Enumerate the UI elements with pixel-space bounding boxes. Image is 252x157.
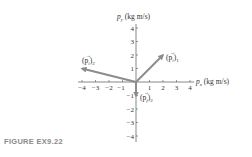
svg-text:−3: −3 <box>92 84 100 92</box>
svg-text:−4: −4 <box>78 84 86 92</box>
svg-text:4: 4 <box>131 25 135 33</box>
svg-text:−1: −1 <box>117 84 125 92</box>
y-axis-label: py (kg m/s) <box>116 12 151 22</box>
svg-text:−4: −4 <box>127 133 135 141</box>
svg-text:2: 2 <box>131 52 135 60</box>
momentum-vector-diagram: −4 −3 −2 −1 1 2 3 4 4 3 2 1 −1 −2 −3 −4 … <box>0 0 252 157</box>
svg-text:→: → <box>170 50 175 55</box>
svg-text:−1: −1 <box>127 92 135 100</box>
svg-text:3: 3 <box>175 84 179 92</box>
x-axis-label: px (kg m/s) <box>195 77 230 87</box>
svg-text:4: 4 <box>188 84 192 92</box>
figure-caption: FIGURE EX9.22 <box>4 137 63 146</box>
svg-text:→: → <box>144 90 149 95</box>
svg-text:−2: −2 <box>105 84 113 92</box>
svg-text:3: 3 <box>131 38 135 46</box>
svg-text:1: 1 <box>131 65 135 73</box>
svg-text:−2: −2 <box>127 106 135 114</box>
vector-pi2 <box>82 69 136 83</box>
svg-text:−3: −3 <box>127 119 135 127</box>
y-tick-labels: 4 3 2 1 −1 −2 −3 −4 <box>127 25 135 141</box>
vector-pi1 <box>136 55 163 82</box>
svg-text:2: 2 <box>161 84 165 92</box>
svg-text:→: → <box>86 53 91 58</box>
